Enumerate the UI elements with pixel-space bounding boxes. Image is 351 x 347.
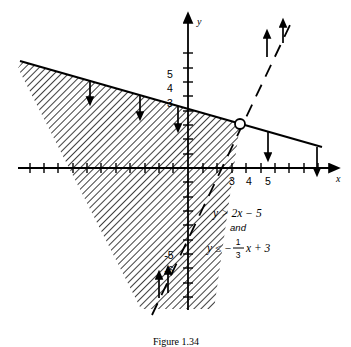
y-tick-label-5: 5 (167, 68, 173, 80)
x-tick-label-3: 3 (229, 175, 235, 187)
y-tick-label-minus-6: -6 (164, 264, 173, 276)
inequality-graph: x y 5 4 3 -5 -6 3 4 5 y > 2x − 5 and y ≤… (0, 0, 351, 347)
figure-caption: Figure 1.34 (153, 336, 199, 347)
x-axis-label: x (335, 173, 341, 184)
inequality-connector: and (230, 222, 247, 233)
inequality-first: y > 2x − 5 (212, 207, 262, 220)
y-axis-label: y (196, 16, 202, 27)
fraction-denominator: 3 (236, 250, 241, 260)
y-tick-label-4: 4 (167, 82, 173, 94)
fraction-numerator: 1 (236, 237, 241, 247)
inequality-second-lhs: y ≤ − (206, 242, 232, 255)
inequality-second-rhs: x + 3 (245, 242, 271, 254)
x-tick-label-5: 5 (265, 175, 271, 187)
figure-container: x y 5 4 3 -5 -6 3 4 5 y > 2x − 5 and y ≤… (0, 0, 351, 347)
x-tick-label-4: 4 (246, 175, 252, 187)
y-tick-label-3: 3 (167, 97, 173, 109)
y-tick-label-minus-5: -5 (164, 249, 173, 261)
intersection-open-circle (235, 119, 245, 129)
